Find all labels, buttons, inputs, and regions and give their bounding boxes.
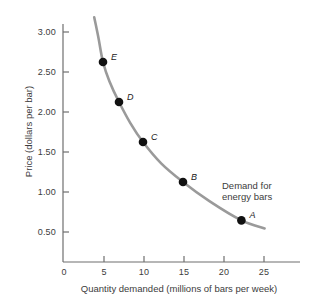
y-tick-label-1-00: 1.00 [22,187,56,197]
data-point-A [237,216,246,225]
point-label-A: A [249,210,255,220]
data-point-C [139,138,148,147]
demand-curve-annotation-line1: Demand for [222,180,272,191]
y-tick-label-1-50: 1.50 [22,147,56,157]
point-label-C: C [151,132,158,142]
y-tick-label-2-50: 2.50 [22,67,56,77]
x-axis-ticks [104,256,264,262]
demand-curve-annotation: Demand for energy bars [222,180,272,202]
x-tick-label-10: 10 [132,267,156,277]
point-label-D: D [127,92,134,102]
point-label-E: E [111,52,117,62]
y-tick-label-0-50: 0.50 [22,227,56,237]
x-tick-label-0: 0 [52,267,76,277]
x-tick-label-25: 25 [252,267,276,277]
demand-curve-figure: Price (dollars per bar) 3.00 2.50 2.00 1… [0,0,315,304]
point-label-B: B [191,172,197,182]
x-tick-label-20: 20 [212,267,236,277]
x-tick-label-5: 5 [92,267,116,277]
data-point-E [99,58,108,67]
y-tick-label-2-00: 2.00 [22,107,56,117]
data-point-B [179,178,188,187]
y-tick-label-3-00: 3.00 [22,27,56,37]
data-point-D [115,98,124,107]
x-tick-label-15: 15 [172,267,196,277]
y-axis-ticks [63,32,69,232]
demand-curve-annotation-line2: energy bars [222,191,272,202]
y-axis-title: Price (dollars per bar) [23,62,34,202]
x-axis-title: Quantity demanded (millions of bars per … [48,283,310,294]
